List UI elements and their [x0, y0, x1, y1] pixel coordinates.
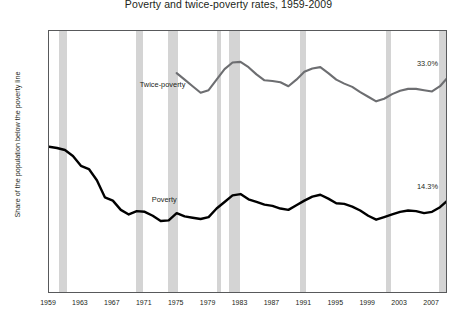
y-axis-label: Share of the population below the povert… [13, 35, 22, 255]
series-lines [49, 31, 447, 293]
chart-title: Poverty and twice-poverty rates, 1959-20… [0, 0, 457, 10]
line-twice-poverty [177, 62, 447, 101]
end-value-twice-poverty: 33.0% [417, 59, 438, 68]
plot-area [48, 30, 447, 293]
series-label-twice-poverty: Twice-poverty [140, 80, 186, 89]
x-tick-label: 2007 [411, 299, 451, 306]
chart-root: Poverty and twice-poverty rates, 1959-20… [0, 0, 457, 330]
series-label-poverty: Poverty [152, 195, 177, 204]
end-value-poverty: 14.3% [417, 182, 438, 191]
line-poverty [49, 147, 447, 221]
